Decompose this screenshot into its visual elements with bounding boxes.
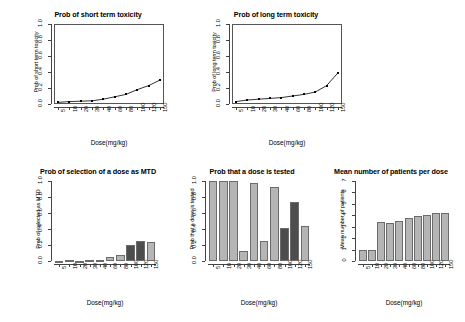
x-axis-tick [120,264,121,267]
y-axis-tick [352,238,355,239]
x-axis-tick-label: 150 [307,260,313,269]
x-axis-tick [295,264,296,267]
x-axis-tick [80,264,81,267]
bar [229,181,238,261]
bar [136,241,145,261]
data-point [68,101,70,103]
y-axis-tick [352,204,355,205]
x-axis-tick-label: 5 [215,266,221,269]
y-axis-tick-label: 7 [341,172,347,188]
x-axis-tick [372,264,373,267]
y-axis-tick [352,250,355,251]
data-point [269,97,271,99]
y-axis-tick [352,261,355,262]
bar [65,260,74,262]
panel-title: Mean number of patients per dose [316,167,465,176]
y-axis-tick-label: 0.2 [37,236,43,252]
x-axis-tick-label: 100 [287,260,293,269]
x-axis-tick [90,264,91,267]
bar [290,202,299,261]
x-axis-tick-label: 40 [402,263,408,269]
y-axis-tick [48,229,51,230]
x-axis-tick-label: 20 [383,263,389,269]
data-point [292,95,294,97]
x-axis-tick-label: 30 [246,263,252,269]
x-axis-tick-label: 120 [297,260,303,269]
panel-mean-patients: Mean number of patients per dose Mean nu… [322,165,465,320]
y-axis-tick-label: 0.6 [191,204,197,220]
y-axis-tick-label: 0.8 [191,188,197,204]
x-axis-tick-label: 40 [102,263,108,269]
x-axis-tick [59,264,60,267]
bar [96,260,105,262]
x-axis-tick [234,264,235,267]
y-axis-tick [48,261,51,262]
x-axis-tick [254,264,255,267]
x-axis-tick-label: 20 [236,263,242,269]
x-axis-tick-label: 100 [133,260,139,269]
x-axis-tick-label: 5 [61,266,67,269]
bar [405,218,413,261]
y-axis-tick-label: 0.0 [191,252,197,268]
x-axis-label: Dose(mg/kg) [208,299,310,306]
data-point [91,100,93,102]
bar [260,241,269,261]
x-axis-tick [363,264,364,267]
y-axis-tick-label: 0.4 [191,220,197,236]
data-point [125,93,127,95]
x-axis-tick-label: 150 [153,260,159,269]
data-point [337,72,339,74]
x-axis-tick-label: 30 [92,263,98,269]
y-axis-tick-label: 0.6 [37,204,43,220]
x-axis-tick-label: 5 [365,266,371,269]
y-axis-tick-label: 0.0 [37,252,43,268]
y-axis-line [205,181,206,261]
bar [219,181,228,261]
series-line-long-term [196,8,356,158]
x-axis-label: Dose(mg/kg) [54,299,156,306]
y-axis-tick [352,227,355,228]
y-axis-tick [202,261,205,262]
y-axis-tick-label: 0.4 [37,220,43,236]
x-axis-tick-label: 100 [429,260,435,269]
x-axis-tick-label: 10 [72,263,78,269]
bar [250,183,259,261]
x-axis-tick-label: 60 [411,263,417,269]
bar [280,228,289,261]
data-point [303,93,305,95]
x-axis-tick-label: 20 [82,263,88,269]
data-point [326,85,328,87]
bar [414,216,422,261]
x-axis-tick-label: 40 [256,263,262,269]
x-axis-label: Dose(mg/kg) [358,299,450,306]
y-axis-tick-label: 1.0 [37,172,43,188]
bar [377,222,385,261]
x-axis-tick-label: 120 [143,260,149,269]
bar [395,221,403,261]
x-axis-tick [264,264,265,267]
x-axis-tick [399,264,400,267]
y-axis-tick [352,181,355,182]
y-axis-tick [48,181,51,182]
y-axis-tick [48,213,51,214]
x-axis-tick [244,264,245,267]
panel-short-term-toxicity: Prob of short term toxicity Prob of shor… [18,8,178,158]
y-axis-line [51,181,52,261]
x-axis-tick [418,264,419,267]
y-axis-tick [202,181,205,182]
series-line-short-term [18,8,178,158]
bar [359,250,367,261]
bar [441,213,449,261]
y-axis-tick [352,215,355,216]
bar [126,245,135,261]
data-point [102,98,104,100]
data-point [246,99,248,101]
data-point [314,91,316,93]
data-point [280,97,282,99]
data-point [80,100,82,102]
data-point [136,89,138,91]
y-axis-tick [352,192,355,193]
x-axis-tick [274,264,275,267]
y-axis-tick [202,197,205,198]
bar [209,181,218,261]
